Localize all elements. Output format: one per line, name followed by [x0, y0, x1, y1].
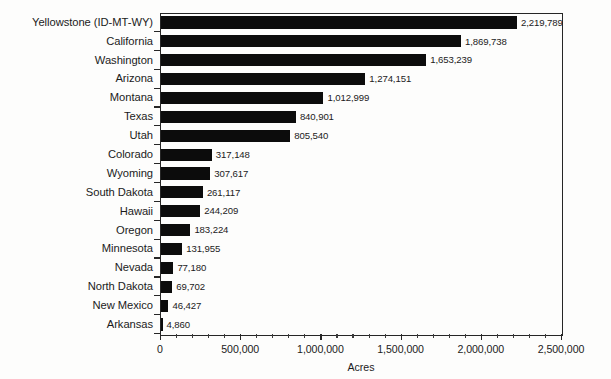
bar — [161, 167, 210, 179]
bar — [161, 205, 200, 217]
bar — [161, 73, 365, 85]
bar-value-label: 46,427 — [172, 301, 201, 311]
x-axis-minor-tick — [369, 334, 370, 338]
y-axis-label: Texas — [0, 111, 153, 122]
y-axis-tick — [154, 125, 161, 126]
bar — [161, 54, 426, 66]
x-axis-tick-label: 0 — [157, 343, 163, 355]
bar — [161, 281, 172, 293]
y-axis-label: Wyoming — [0, 168, 153, 179]
y-axis-label: Colorado — [0, 149, 153, 160]
y-axis-tick — [154, 182, 161, 183]
y-axis-label: South Dakota — [0, 187, 153, 198]
bar — [161, 130, 290, 142]
x-axis-minor-tick — [513, 334, 514, 338]
bar — [161, 92, 323, 104]
x-axis-minor-tick — [176, 334, 177, 338]
bar-value-label: 261,117 — [207, 188, 240, 198]
bar — [161, 186, 203, 198]
x-axis-major-tick — [240, 334, 241, 340]
bar-value-label: 2,219,789 — [521, 18, 563, 28]
y-axis-tick — [154, 106, 161, 107]
y-axis-tick — [154, 239, 161, 240]
x-axis-major-tick — [320, 334, 321, 340]
y-axis-tick — [154, 88, 161, 89]
y-axis-label: Arizona — [0, 73, 153, 84]
bar-value-label: 1,869,738 — [465, 37, 507, 47]
y-axis-label: California — [0, 36, 153, 47]
x-axis-minor-tick — [304, 334, 305, 338]
x-axis-minor-tick — [272, 334, 273, 338]
x-axis-tick-label: 1,500,000 — [377, 343, 424, 355]
bar — [161, 262, 173, 274]
bar — [161, 111, 296, 123]
x-axis-minor-tick — [224, 334, 225, 338]
x-axis-minor-tick — [352, 334, 353, 338]
bar — [161, 149, 212, 161]
bar-value-label: 1,012,999 — [327, 93, 369, 103]
y-axis-tick — [154, 295, 161, 296]
bar — [161, 243, 182, 255]
x-axis: Acres 0500,0001,000,0001,500,0002,000,00… — [160, 334, 563, 379]
y-axis-tick — [154, 333, 161, 334]
bar-value-label: 131,955 — [186, 244, 220, 254]
y-axis-label: Arkansas — [0, 319, 153, 330]
y-axis-tick — [154, 314, 161, 315]
bar-value-label: 69,702 — [176, 282, 205, 292]
x-axis-title: Acres — [347, 361, 374, 373]
x-axis-major-tick — [401, 334, 402, 340]
x-axis-minor-tick — [529, 334, 530, 338]
x-axis-minor-tick — [417, 334, 418, 338]
bar — [161, 16, 517, 28]
y-axis-tick — [154, 201, 161, 202]
x-axis-minor-tick — [497, 334, 498, 338]
bar-value-label: 805,540 — [294, 131, 328, 141]
y-axis-category-labels: Yellowstone (ID-MT-WY)CaliforniaWashingt… — [0, 13, 153, 334]
y-axis-label: Washington — [0, 55, 153, 66]
x-axis-tick-label: 500,000 — [221, 343, 259, 355]
bar — [161, 35, 461, 47]
bar-value-label: 4,860 — [167, 320, 191, 330]
x-axis-tick-label: 2,500,000 — [538, 343, 585, 355]
x-axis-minor-tick — [449, 334, 450, 338]
y-axis-label: Hawaii — [0, 206, 153, 217]
x-axis-minor-tick — [256, 334, 257, 338]
y-axis-label: New Mexico — [0, 300, 153, 311]
y-axis-tick — [154, 50, 161, 51]
y-axis-tick — [154, 69, 161, 70]
x-axis-tick-label: 1,000,000 — [297, 343, 344, 355]
x-axis-major-tick — [160, 334, 161, 340]
y-axis-tick — [154, 31, 161, 32]
y-axis-label: Yellowstone (ID-MT-WY) — [0, 17, 153, 28]
x-axis-minor-tick — [336, 334, 337, 338]
x-axis-tick-label: 2,000,000 — [457, 343, 504, 355]
y-axis-tick — [154, 220, 161, 221]
y-axis-tick — [154, 276, 161, 277]
x-axis-minor-tick — [433, 334, 434, 338]
bar-value-label: 1,274,151 — [369, 74, 411, 84]
x-axis-minor-tick — [288, 334, 289, 338]
y-axis-label: Utah — [0, 130, 153, 141]
bar-value-label: 77,180 — [177, 263, 206, 273]
x-axis-major-tick — [561, 334, 562, 340]
x-axis-major-tick — [481, 334, 482, 340]
y-axis-label: Montana — [0, 92, 153, 103]
x-axis-minor-tick — [192, 334, 193, 338]
bar-value-label: 317,148 — [216, 150, 250, 160]
bar-value-label: 840,901 — [300, 112, 334, 122]
y-axis-tick — [154, 163, 161, 164]
y-axis-label: Nevada — [0, 262, 153, 273]
horizontal-bar-chart: Yellowstone (ID-MT-WY)CaliforniaWashingt… — [0, 0, 611, 379]
y-axis-label: North Dakota — [0, 281, 153, 292]
y-axis-label: Oregon — [0, 225, 153, 236]
y-axis-tick — [154, 257, 161, 258]
bar-value-label: 307,617 — [214, 169, 248, 179]
y-axis-tick — [154, 144, 161, 145]
bar — [161, 300, 168, 312]
x-axis-minor-tick — [545, 334, 546, 338]
bar-value-label: 1,653,239 — [430, 55, 472, 65]
bar — [161, 318, 163, 330]
x-axis-minor-tick — [385, 334, 386, 338]
x-axis-minor-tick — [208, 334, 209, 338]
bar-value-label: 244,209 — [204, 206, 238, 216]
